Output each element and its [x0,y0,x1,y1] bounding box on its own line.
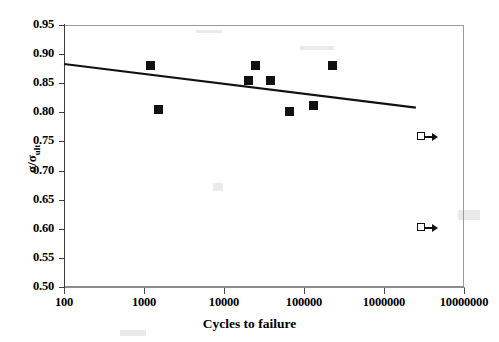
y-tick-label: 0.85 [6,76,54,88]
fatigue-sn-chart: 0.500.550.600.650.700.750.800.850.900.95… [0,0,499,342]
y-tick-label: 0.90 [6,47,54,59]
data-point-marker [244,76,253,85]
runout-arrowhead-icon [432,224,438,232]
x-axis-title: Cycles to failure [0,316,499,332]
runout-square-icon [417,223,425,231]
y-tick [59,141,65,142]
y-axis-title-subscript: ult [32,145,42,156]
data-point-marker [266,76,275,85]
data-point-marker [309,101,318,110]
x-tick-label: 10000000 [404,295,499,310]
y-tick [59,200,65,201]
y-tick [59,25,65,26]
y-tick [59,258,65,259]
data-point-marker [251,61,260,70]
y-tick [59,229,65,230]
y-tick [59,54,65,55]
y-axis-title-main: σ/σ [24,155,39,173]
y-axis-title: σ/σult [24,114,42,204]
runout-arrowhead-icon [432,133,438,141]
data-point-marker [154,105,163,114]
y-tick-label: 0.95 [6,18,54,30]
data-point-marker [285,107,294,116]
x-axis-line [64,287,465,288]
x-tick [304,288,305,294]
x-tick [464,288,465,294]
y-tick [59,171,65,172]
x-tick [224,288,225,294]
x-tick [64,288,65,294]
y-tick-label: 0.50 [6,280,54,292]
data-point-marker [328,61,337,70]
y-tick [59,83,65,84]
plot-area [64,25,464,287]
x-tick [144,288,145,294]
y-tick [59,112,65,113]
y-tick-label: 0.60 [6,222,54,234]
y-axis-line [64,24,65,288]
runout-marker [417,132,427,142]
runout-marker [417,223,427,233]
y-tick-label: 0.55 [6,251,54,263]
data-point-marker [146,61,155,70]
x-tick [384,288,385,294]
runout-square-icon [417,132,425,140]
